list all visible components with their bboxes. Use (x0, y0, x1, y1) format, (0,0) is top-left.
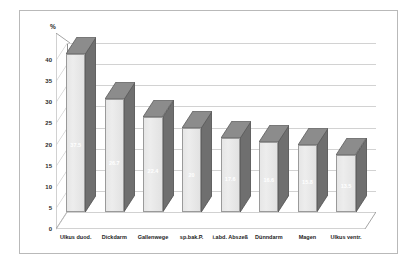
y-axis-tick-label: 15 (38, 163, 52, 169)
bar-top-face (143, 100, 173, 117)
bar-side-face (124, 82, 135, 212)
y-axis-tick-label: 10 (38, 184, 52, 190)
bar-value-label: 17.6 (221, 177, 240, 183)
y-axis-unit-label: % (50, 23, 56, 30)
bar-top-face (221, 121, 251, 138)
bar-top-face (298, 128, 328, 145)
bar-value-label: 13.5 (336, 184, 355, 190)
y-axis-tick-label: 40 (38, 57, 52, 63)
bar-value-label: 22.4 (143, 169, 162, 175)
bar-value-label: 37.5 (66, 143, 85, 149)
bar-value-label: 26.7 (105, 161, 124, 167)
gridline (67, 43, 376, 44)
bar-top-face (259, 125, 289, 142)
gridline-depth-connector (56, 212, 67, 247)
bar-side-face (85, 37, 96, 212)
bar-front-face (221, 138, 240, 212)
bar[interactable]: 17.6 (221, 138, 240, 212)
y-axis-tick-label: 5 (38, 205, 52, 211)
bar[interactable]: 37.5 (66, 54, 85, 212)
bar-top-face (105, 82, 135, 99)
bar-value-label: 15.8 (298, 180, 317, 186)
gridline (67, 64, 376, 65)
bar-front-face (143, 117, 162, 212)
y-axis-tick-label: 0 (38, 226, 52, 232)
bar-value-label: 20 (182, 173, 201, 179)
chart-frame: % n = 427 ; Letalität gesamt = 19.7 % 05… (19, 10, 398, 254)
bar[interactable]: 16.6 (259, 142, 278, 212)
bar[interactable]: 20 (182, 128, 201, 213)
bar[interactable]: 15.8 (298, 145, 317, 212)
bar-front-face (66, 54, 85, 212)
bar-top-face (336, 138, 366, 155)
plot-area: 0510152025303540 37.526.722.42017.616.61… (56, 33, 376, 229)
y-axis-tick-label: 35 (38, 78, 52, 84)
bar-top-face (182, 111, 212, 128)
y-axis-tick-label: 30 (38, 99, 52, 105)
bar-value-label: 16.6 (259, 178, 278, 184)
x-axis-category-label: Ulkus ventr. (316, 235, 376, 241)
bar-front-face (105, 99, 124, 212)
bar[interactable]: 13.5 (336, 155, 355, 212)
y-axis-tick-label: 25 (38, 120, 52, 126)
bar[interactable]: 22.4 (143, 117, 162, 212)
bar-front-face (182, 128, 201, 213)
bar-top-face (66, 37, 96, 54)
bar[interactable]: 26.7 (105, 99, 124, 212)
y-axis-tick-label: 20 (38, 142, 52, 148)
